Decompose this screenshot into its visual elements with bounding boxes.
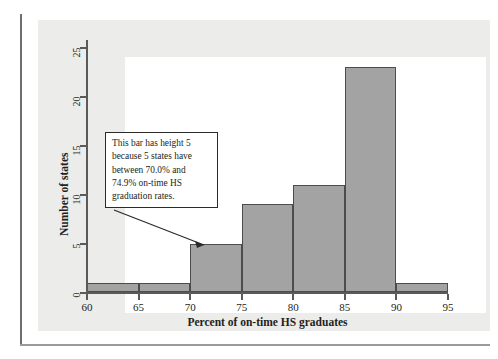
x-axis-tick-label: 85 [330,301,360,313]
histogram-bar [293,185,345,293]
annotation-line: graduation rates. [112,190,212,203]
histogram-bar [190,244,242,293]
histogram-bar [242,204,294,292]
x-axis-title: Percent of on-time HS graduates [87,316,448,328]
annotation-line: This bar has height 5 [112,137,212,150]
figure-page: 0510152025 6065707580859095 Number of st… [0,0,498,359]
y-axis-tick-label: 10 [71,194,82,218]
x-axis-tick-label: 65 [124,301,154,313]
x-axis-tick [138,294,140,300]
y-axis-line [86,40,88,294]
x-axis-tick [86,294,88,300]
x-axis-tick [189,294,191,300]
histogram-bar [345,67,397,292]
y-axis-title: Number of states [58,153,70,236]
y-axis-tick-label: 15 [71,145,82,169]
annotation-line: 74.9% on-time HS [112,177,212,190]
x-axis-tick [292,294,294,300]
x-axis-tick-label: 75 [227,301,257,313]
x-axis-tick [344,294,346,300]
x-axis-tick-label: 60 [72,301,102,313]
y-axis-tick-label: 20 [71,96,82,120]
page-bottom-rule [20,344,490,346]
x-axis-line [86,292,448,294]
y-axis-tick-label: 25 [71,47,82,71]
annotation-line: between 70.0% and [112,164,212,177]
y-axis-tick-label: 5 [71,243,82,267]
page-gutter-rule [20,14,22,345]
annotation-callout: This bar has height 5 because 5 states h… [105,132,218,208]
x-axis-tick [395,294,397,300]
x-axis-tick-label: 90 [381,301,411,313]
x-axis-tick [241,294,243,300]
x-axis-tick-label: 80 [278,301,308,313]
x-axis-tick [447,294,449,300]
annotation-line: because 5 states have [112,150,212,163]
x-axis-tick-label: 95 [433,301,463,313]
y-axis-title-wrapper: Number of states [58,236,72,237]
x-axis-tick-label: 70 [175,301,205,313]
